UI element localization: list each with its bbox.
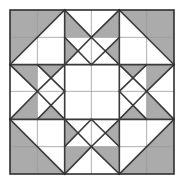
center-square-light (65, 65, 120, 120)
quilt-block-canvas: Pieced Quilt Block Six-by-six grid piece… (0, 0, 183, 185)
quilt-block-diagram (0, 0, 183, 185)
